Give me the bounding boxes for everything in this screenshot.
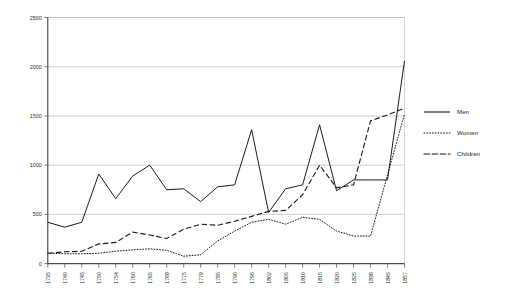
legend-label-men: Men xyxy=(457,108,470,115)
x-tick-label-1775: 1775 xyxy=(181,272,187,284)
x-tick-label-1745: 1745 xyxy=(79,272,85,284)
x-tick-label-1825: 1825 xyxy=(351,272,357,284)
x-tick-label-1845: 1845 xyxy=(385,272,391,284)
y-axis-tick-labels: 05001000150020002500 xyxy=(30,15,42,267)
legend-label-children: Children xyxy=(457,150,481,157)
x-tick-label-1785: 1785 xyxy=(215,272,221,284)
x-tick-label-1810: 1810 xyxy=(300,272,306,284)
legend-label-women: Women xyxy=(457,129,479,136)
x-tick-label-1836: 1836 xyxy=(368,272,374,284)
y-tick-label-500: 500 xyxy=(33,211,42,217)
chart-canvas: 05001000150020002500 1735174017451750175… xyxy=(0,0,510,303)
x-tick-label-1760: 1760 xyxy=(130,272,136,284)
y-tick-label-2500: 2500 xyxy=(30,15,42,21)
x-tick-label-1779: 1779 xyxy=(198,272,204,284)
y-tick-label-1500: 1500 xyxy=(30,113,42,119)
plot-area-border xyxy=(48,18,405,264)
x-tick-label-1750: 1750 xyxy=(96,272,102,284)
x-axis-tick-labels: 1735174017451750175417601765176817751779… xyxy=(45,272,408,284)
x-tick-label-1768: 1768 xyxy=(164,272,170,284)
x-tick-label-1795: 1795 xyxy=(249,272,255,284)
plot-background xyxy=(48,18,405,264)
chart-legend: MenWomenChildren xyxy=(424,108,481,157)
x-tick-label-1735: 1735 xyxy=(45,272,51,284)
y-tick-label-1000: 1000 xyxy=(30,162,42,168)
series-line-women xyxy=(48,114,405,256)
x-tick-label-1820: 1820 xyxy=(334,272,340,284)
x-tick-label-1754: 1754 xyxy=(113,272,119,284)
x-tick-label-1857: 1857 xyxy=(402,272,408,284)
x-tick-label-1765: 1765 xyxy=(147,272,153,284)
line-chart-figure: 05001000150020002500 1735174017451750175… xyxy=(0,0,510,303)
y-tick-label-2000: 2000 xyxy=(30,64,42,70)
series-line-children xyxy=(48,108,405,253)
x-tick-label-1790: 1790 xyxy=(232,272,238,284)
series-line-men xyxy=(48,61,405,227)
x-tick-label-1805: 1805 xyxy=(283,272,289,284)
x-tick-label-1815: 1815 xyxy=(317,272,323,284)
gridline-group xyxy=(48,18,405,215)
x-tick-mark-group xyxy=(48,264,405,268)
x-tick-label-1802: 1802 xyxy=(266,272,272,284)
x-tick-label-1740: 1740 xyxy=(62,272,68,284)
y-tick-label-0: 0 xyxy=(39,261,42,267)
data-series-group xyxy=(48,61,405,256)
